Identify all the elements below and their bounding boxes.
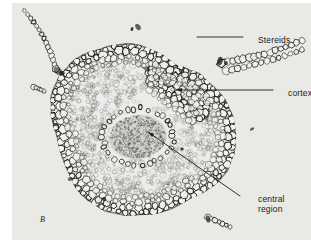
central-label-line-2: region bbox=[258, 204, 283, 214]
annotation-label-cortex: cortex bbox=[288, 88, 311, 98]
annotation-label-central-region: centralregion bbox=[258, 194, 285, 214]
figure-root: Stereids cortex centralregion B bbox=[0, 0, 311, 251]
annotation-label-stereids: Stereids bbox=[258, 35, 290, 45]
figure-letter: B bbox=[40, 215, 45, 224]
central-label-line-1: central bbox=[258, 194, 285, 204]
micrograph-plate: Stereids cortex centralregion B bbox=[12, 3, 311, 240]
